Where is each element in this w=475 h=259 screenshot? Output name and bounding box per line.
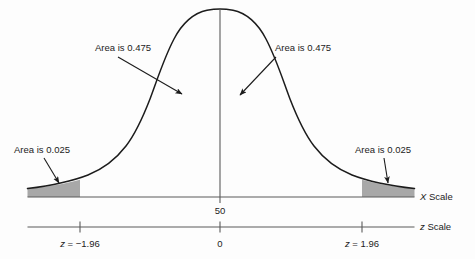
x-scale-axis-label: X Scale [419,191,453,202]
z-scale-label-positive: z = 1.96 [344,238,379,249]
figure-background [0,0,475,259]
z-scale-label-zero-value: 0 [217,238,222,249]
z-scale-label-positive-value: = 1.96 [350,238,379,249]
z-scale-axis-label-suffix: Scale [425,221,451,232]
x-scale-center-value: 50 [215,205,226,216]
z-scale-label-negative: z = −1.96 [59,238,100,249]
z-scale-label-negative-value: = −1.96 [65,238,100,249]
right-tail-area-label: Area is 0.025 [355,144,411,155]
right-body-area-label: Area is 0.475 [275,42,331,53]
z-scale-label-zero: 0 [217,238,222,249]
x-scale-axis-label-suffix: Scale [426,191,452,202]
left-tail-area-label: Area is 0.025 [14,144,70,155]
z-scale-axis-label: z Scale [419,221,451,232]
normal-distribution-figure: Area is 0.475 Area is 0.475 Area is 0.02… [0,0,475,259]
left-body-area-label: Area is 0.475 [95,42,151,53]
